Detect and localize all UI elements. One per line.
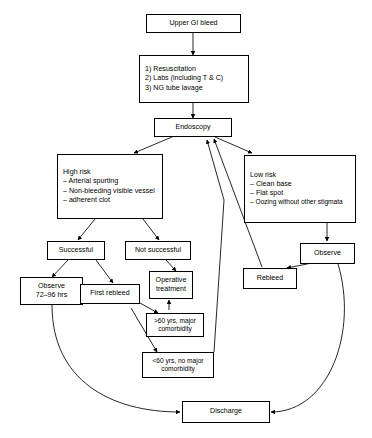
edge-successful-to-observe7296	[52, 260, 68, 277]
node-label: Upper GI bleed	[169, 19, 217, 28]
high-risk-item-2: – Non-bleeding visible vessel	[63, 187, 155, 196]
observe-line-2: 72–96 hrs	[36, 291, 68, 300]
node-operative-treatment[interactable]: Operative treatment	[149, 271, 193, 299]
over-60-line-1: >60 yrs, major	[154, 317, 196, 325]
flowchart-canvas: Upper GI bleed 1) Resuscitation 2) Labs …	[0, 0, 372, 438]
edge-highrisk-to-notsuccessful	[143, 219, 159, 240]
edge-endoscopy-to-highrisk	[134, 137, 172, 153]
node-label: Discharge	[210, 407, 242, 416]
over-60-line-2: comorbidity	[158, 325, 192, 333]
operative-line-2: treatment	[156, 285, 186, 294]
initial-step-3: 3) NG tube lavage	[145, 84, 203, 93]
node-upper-gi-bleed[interactable]: Upper GI bleed	[146, 14, 241, 33]
node-observe[interactable]: Observe	[300, 243, 355, 264]
node-first-rebleed[interactable]: First rebleed	[80, 284, 140, 304]
node-discharge[interactable]: Discharge	[182, 401, 270, 423]
high-risk-item-1: – Arterial spurting	[63, 177, 118, 186]
node-label: Successful	[59, 246, 93, 255]
node-initial-management[interactable]: 1) Resuscitation 2) Labs (including T & …	[139, 55, 249, 103]
node-label: Rebleed	[257, 274, 283, 283]
under-60-line-2: comorbidity	[161, 365, 195, 373]
low-risk-item-1: – Clean base	[250, 180, 292, 189]
edge-firstrebleed-to-over60	[140, 303, 158, 313]
edge-successful-to-firstrebleed	[96, 260, 113, 283]
edge-under60-to-endoscopy	[207, 140, 224, 352]
node-endoscopy[interactable]: Endoscopy	[154, 118, 232, 137]
low-risk-heading: Low risk	[250, 171, 276, 180]
node-successful[interactable]: Successful	[47, 241, 105, 260]
edge-highrisk-to-successful	[78, 219, 95, 240]
edge-notsuccessful-to-operative	[166, 260, 176, 271]
node-not-successful[interactable]: Not successful	[125, 241, 191, 260]
under-60-line-1: <60 yrs, no major	[152, 357, 203, 365]
initial-step-1: 1) Resuscitation	[145, 65, 196, 74]
operative-line-1: Operative	[156, 276, 187, 285]
node-label: First rebleed	[90, 289, 129, 298]
node-high-risk[interactable]: High risk – Arterial spurting – Non-blee…	[57, 154, 163, 219]
node-low-risk[interactable]: Low risk – Clean base – Flat spot – Oozi…	[244, 155, 356, 223]
low-risk-item-2: – Flat spot	[250, 189, 283, 198]
high-risk-item-3: – adherent clot	[63, 196, 110, 205]
node-label: Observe	[314, 249, 341, 258]
initial-step-2: 2) Labs (including T & C)	[145, 74, 223, 83]
node-observe-72-96-hrs[interactable]: Observe 72–96 hrs	[20, 277, 83, 305]
high-risk-heading: High risk	[63, 168, 91, 177]
node-rebleed[interactable]: Rebleed	[243, 268, 297, 289]
observe-line-1: Observe	[38, 282, 65, 291]
node-label: Endoscopy	[175, 123, 210, 132]
node-over-60-major-comorbidity[interactable]: >60 yrs, major comorbidity	[146, 313, 204, 337]
edge-endoscopy-to-lowrisk	[215, 137, 252, 153]
node-under-60-no-major-comorbidity[interactable]: <60 yrs, no major comorbidity	[142, 352, 214, 378]
low-risk-item-3: – Oozing without other stigmata	[250, 198, 343, 206]
node-label: Not successful	[135, 246, 181, 255]
